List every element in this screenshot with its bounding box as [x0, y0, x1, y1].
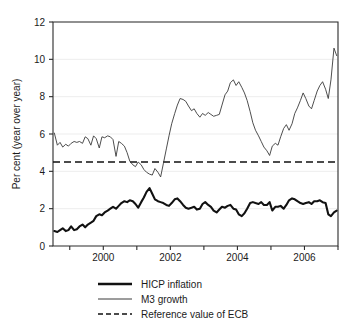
chart-figure: 024681012 2000200220042006 Per cent (yea…: [0, 0, 352, 326]
y-tick-label: 2: [39, 203, 45, 214]
x-tick-label: 2000: [92, 252, 115, 263]
y-axis-title: Per cent (year over year): [11, 79, 22, 190]
y-tick-label: 10: [34, 54, 46, 65]
x-tick-label: 2006: [293, 252, 316, 263]
legend-label: M3 growth: [141, 294, 188, 305]
x-tick-label: 2004: [226, 252, 249, 263]
x-tick-label: 2002: [159, 252, 182, 263]
legend-label: Reference value of ECB: [141, 309, 249, 320]
legend-label: HICP inflation: [141, 279, 202, 290]
y-tick-label: 4: [39, 166, 45, 177]
y-tick-label: 12: [34, 17, 46, 28]
y-tick-label: 6: [39, 129, 45, 140]
y-tick-label: 8: [39, 91, 45, 102]
y-tick-label: 0: [39, 241, 45, 252]
inflation-m3-line-chart: 024681012 2000200220042006 Per cent (yea…: [0, 0, 352, 326]
